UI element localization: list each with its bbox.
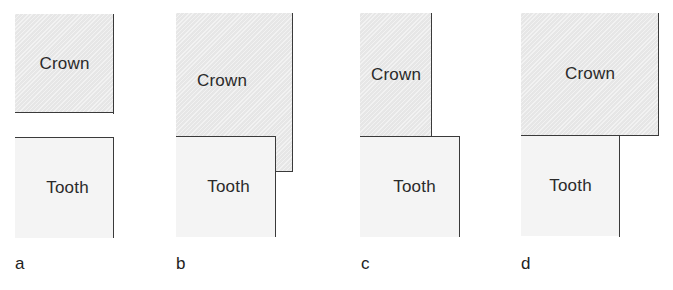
tooth-block: Tooth	[521, 136, 620, 236]
crown-label: Crown	[565, 64, 615, 84]
crown-right-edge	[658, 13, 659, 136]
tooth-right-edge	[619, 135, 620, 237]
panel-d: Crown Tooth d	[0, 0, 673, 290]
crown-block: Crown	[521, 13, 659, 135]
panel-caption: d	[521, 254, 530, 274]
tooth-label: Tooth	[549, 176, 592, 196]
